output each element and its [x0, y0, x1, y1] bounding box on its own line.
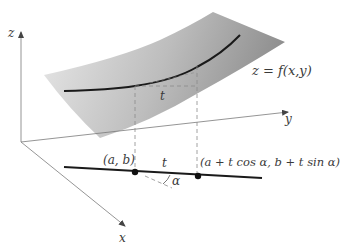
angle-arc	[163, 175, 170, 184]
point-a-b-label: (a, b)	[103, 153, 135, 167]
diagram-canvas: z y x t z = f(x,y) (a, b) t α (a + t cos…	[0, 0, 359, 250]
angle-alpha-label: α	[172, 174, 180, 188]
base-segment-t-label: t	[162, 156, 167, 170]
z-axis-label: z	[7, 26, 15, 40]
point-displaced	[195, 173, 201, 179]
point-a-b	[132, 169, 138, 175]
x-axis-label: x	[119, 231, 126, 245]
surface-segment-t-label: t	[160, 89, 165, 103]
y-axis	[21, 112, 288, 142]
surface-function-label: z = f(x,y)	[251, 63, 312, 78]
y-axis-label: y	[284, 112, 292, 126]
point-displaced-label: (a + t cos α, b + t sin α)	[200, 155, 340, 169]
surface-patch	[44, 12, 285, 138]
angle-reference-line	[145, 176, 172, 188]
diagram-svg: z y x t z = f(x,y) (a, b) t α (a + t cos…	[0, 0, 359, 250]
